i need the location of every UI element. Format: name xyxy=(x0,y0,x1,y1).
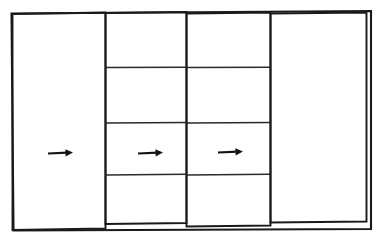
flow-arrow-left-shaft xyxy=(48,153,68,154)
left-panel xyxy=(13,13,106,231)
second-panel-divider-3 xyxy=(106,174,187,175)
third-panel xyxy=(187,13,271,227)
panel-group-2 xyxy=(106,12,187,224)
flow-arrow-middle-head xyxy=(155,149,163,156)
panel-group-1 xyxy=(13,13,106,231)
flow-arrow-left xyxy=(48,149,73,156)
flow-arrow-left-head xyxy=(65,149,73,156)
flow-arrow-middle-shaft xyxy=(138,153,158,154)
flow-arrow-middle xyxy=(138,149,163,156)
flow-arrow-right xyxy=(218,148,243,155)
third-panel-divider-3 xyxy=(187,174,271,175)
flow-arrow-right-head xyxy=(235,148,243,155)
panel-group-3 xyxy=(187,13,271,227)
diagram-canvas xyxy=(0,0,377,240)
panel-group-4 xyxy=(271,13,367,223)
right-panel xyxy=(271,13,367,223)
diagram-svg xyxy=(0,0,377,240)
flow-arrow-right-shaft xyxy=(218,152,238,153)
third-panel-divider-2 xyxy=(187,122,271,123)
outer-frame xyxy=(12,11,372,231)
second-panel-divider-2 xyxy=(106,122,187,123)
second-panel xyxy=(106,12,187,224)
